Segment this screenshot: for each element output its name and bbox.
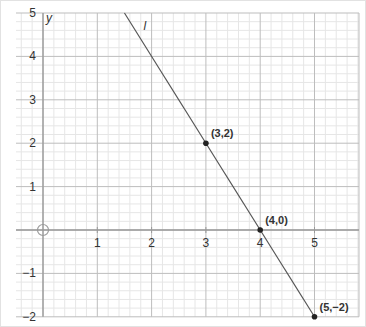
major-grid xyxy=(16,13,359,317)
y-tick-label: 5 xyxy=(29,6,36,20)
data-point xyxy=(312,314,318,320)
y-tick-label: −1 xyxy=(22,266,36,280)
point-label: (4,0) xyxy=(265,214,288,226)
point-label: (3,2) xyxy=(211,127,234,139)
y-tick-label: −2 xyxy=(22,310,36,324)
x-tick-label: 5 xyxy=(311,236,318,250)
data-point xyxy=(203,140,209,146)
x-tick-label: 3 xyxy=(203,236,210,250)
minor-grid xyxy=(16,13,359,317)
line-l-label: l xyxy=(143,19,146,33)
x-tick-label: 1 xyxy=(94,236,101,250)
line-l xyxy=(124,13,314,317)
data-point xyxy=(257,227,263,233)
coordinate-plane: 1234554321−1−2y l(3,2)(4,0)(5,−2) xyxy=(0,0,366,327)
x-tick-label: 4 xyxy=(257,236,264,250)
x-tick-label: 2 xyxy=(148,236,155,250)
y-tick-label: 1 xyxy=(29,180,36,194)
y-axis-label: y xyxy=(45,11,53,25)
axes xyxy=(16,13,359,317)
y-tick-label: 2 xyxy=(29,136,36,150)
y-tick-label: 4 xyxy=(29,49,36,63)
y-tick-label: 3 xyxy=(29,93,36,107)
point-label: (5,−2) xyxy=(320,301,349,313)
tick-labels: 1234554321−1−2y xyxy=(22,6,318,324)
